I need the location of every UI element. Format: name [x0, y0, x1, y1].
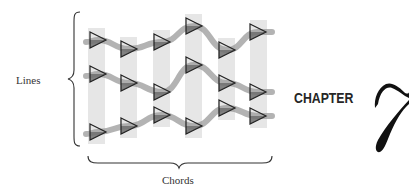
lines-label: Lines — [16, 74, 40, 86]
line-ribbon-1 — [86, 26, 272, 50]
line-ribbons — [86, 26, 272, 134]
chords-label: Chords — [162, 174, 194, 186]
line-ribbon-2 — [86, 65, 272, 92]
lines-chords-diagram: Lines Chords CHAPTER — [0, 0, 409, 193]
lines-brace — [68, 12, 80, 146]
chords-brace — [88, 156, 272, 168]
chapter-heading: CHAPTER — [294, 89, 353, 106]
chapter-number-7-glyph — [375, 83, 409, 152]
line-ribbon-3 — [86, 108, 272, 134]
